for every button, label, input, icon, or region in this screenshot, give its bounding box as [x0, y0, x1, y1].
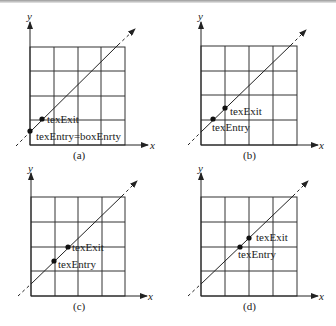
- panel-a: y x texExit texEntry=boxEnrty (a): [16, 10, 155, 162]
- ray-dashed-end: [293, 181, 308, 196]
- panel-b: y x texExit texEntry (b): [188, 10, 324, 162]
- ray-dashed-end: [122, 181, 137, 196]
- y-axis-label: y: [197, 162, 203, 174]
- tex-entry-label: texEntry: [212, 121, 250, 133]
- tex-exit-dot: [246, 235, 251, 240]
- tex-exit-label: texExit: [256, 231, 288, 243]
- grid: [201, 197, 297, 296]
- tex-exit-dot: [222, 105, 227, 110]
- tex-exit-label: texExit: [47, 113, 79, 125]
- ray-dashed-end: [118, 29, 135, 45]
- tex-entry-label: texEntry: [58, 258, 96, 270]
- ray-dashed-start: [16, 132, 30, 146]
- y-axis-label: y: [197, 10, 203, 22]
- tex-exit-label: texExit: [230, 105, 262, 117]
- y-axis-label: y: [26, 10, 32, 22]
- y-axis-label: y: [27, 162, 33, 174]
- panel-caption: (a): [73, 149, 86, 162]
- x-axis-label: x: [149, 139, 155, 151]
- tex-exit-dot: [65, 244, 70, 249]
- panel-d: y x texExit texEntry (d): [188, 162, 324, 313]
- ray-dashed-start: [18, 284, 31, 296]
- figure-canvas: y x texExit texEntry=boxEnrty (a) y x te…: [0, 0, 336, 326]
- panel-c: y x texExit texEntry (c): [18, 162, 153, 313]
- x-axis-label: x: [147, 290, 153, 302]
- tex-entry-dot: [51, 258, 56, 263]
- panel-caption: (c): [73, 300, 86, 313]
- ray-dashed-start: [188, 132, 201, 145]
- x-axis-label: x: [318, 290, 324, 302]
- panel-caption: (b): [243, 149, 256, 162]
- tex-exit-dot: [39, 116, 44, 121]
- tex-entry-label: texEntry=boxEnrty: [36, 130, 122, 142]
- ray-dashed-start: [188, 284, 201, 296]
- panel-caption: (d): [243, 300, 256, 313]
- x-axis-label: x: [318, 139, 324, 151]
- tex-entry-label: texEntry: [238, 248, 276, 260]
- tex-entry-dot: [27, 128, 32, 133]
- tex-exit-label: texExit: [72, 241, 104, 253]
- ray-dashed-end: [291, 30, 306, 45]
